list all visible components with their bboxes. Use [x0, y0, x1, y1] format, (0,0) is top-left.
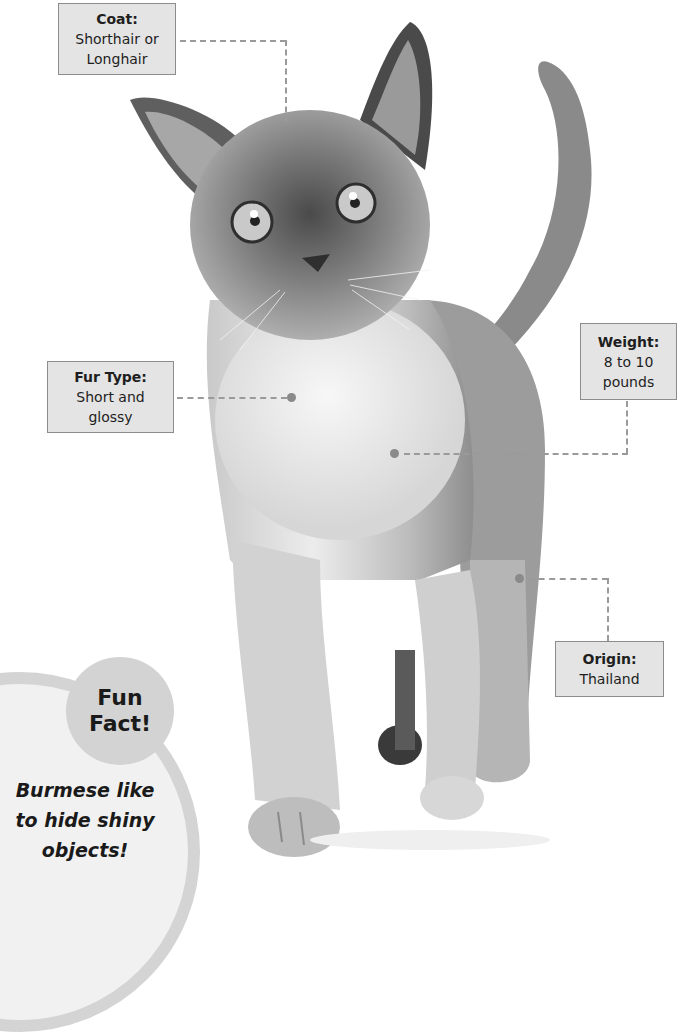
- weight-leader-line-vertical: [626, 401, 628, 454]
- origin-leader-line: [528, 578, 608, 580]
- fun-fact-heading-2: Fact!: [89, 711, 151, 737]
- fur-type-label-value: Short and: [76, 387, 144, 407]
- fur-type-marker-dot: [287, 393, 296, 402]
- weight-label-box: Weight: 8 to 10 pounds: [580, 323, 677, 400]
- weight-label-title: Weight:: [598, 332, 660, 352]
- weight-leader-line: [404, 453, 628, 455]
- coat-leader-line-vertical: [285, 40, 287, 122]
- fun-fact-text: Burmese like to hide shiny objects!: [0, 775, 170, 865]
- coat-label-title: Coat:: [96, 9, 138, 29]
- cat-tail: [480, 61, 592, 355]
- fur-type-label-title: Fur Type:: [74, 367, 147, 387]
- fur-type-label-box: Fur Type: Short and glossy: [47, 361, 174, 433]
- coat-leader-line: [180, 40, 286, 42]
- fur-type-label-value-2: glossy: [88, 407, 132, 427]
- fur-type-leader-line: [177, 397, 287, 399]
- fun-fact-text-line-2: to hide shiny: [0, 805, 170, 835]
- origin-leader-line-vertical: [607, 578, 609, 641]
- fun-fact-badge: Fun Fact!: [66, 657, 174, 765]
- origin-label-title: Origin:: [583, 649, 637, 669]
- coat-label-value: Shorthair or: [75, 29, 158, 49]
- origin-marker-dot: [515, 574, 524, 583]
- weight-marker-dot: [390, 449, 399, 458]
- origin-label-box: Origin: Thailand: [555, 641, 664, 697]
- weight-label-value-2: pounds: [603, 372, 654, 392]
- fun-fact-text-line-3: objects!: [0, 835, 170, 865]
- weight-label-value: 8 to 10: [604, 352, 654, 372]
- cat-head: [190, 110, 430, 340]
- fun-fact-text-line-1: Burmese like: [0, 775, 170, 805]
- coat-label-box: Coat: Shorthair or Longhair: [58, 3, 176, 75]
- coat-label-value-2: Longhair: [87, 49, 148, 69]
- origin-label-value: Thailand: [579, 669, 639, 689]
- fun-fact-heading: Fun: [97, 685, 142, 711]
